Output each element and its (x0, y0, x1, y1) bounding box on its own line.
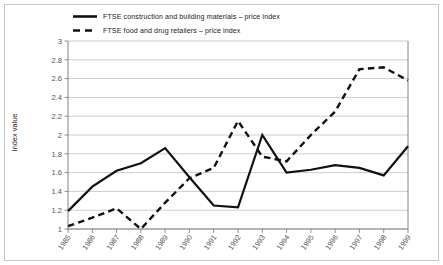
chart-canvas: 11.21.41.61.822.22.42.62.83 198519861987… (0, 0, 443, 265)
x-tick-label: 1986 (80, 233, 97, 252)
series-line-construction (68, 135, 408, 211)
x-tick-label: 1998 (372, 233, 389, 252)
y-tick-label: 1.4 (51, 187, 62, 196)
y-gridlines (68, 41, 408, 229)
x-tick-label: 1990 (177, 233, 194, 252)
x-tick-label: 1997 (347, 233, 364, 252)
x-tick-label: 1987 (105, 233, 122, 252)
y-tick-label: 1 (58, 225, 62, 234)
x-tick-label: 1995 (299, 233, 316, 252)
y-axis-ticks: 11.21.41.61.822.22.42.62.83 (51, 37, 68, 234)
y-tick-label: 2 (58, 131, 62, 140)
x-tick-label: 1992 (226, 233, 243, 252)
x-tick-label: 1988 (129, 233, 146, 252)
x-tick-label: 1999 (396, 233, 413, 252)
x-tick-label: 1993 (250, 233, 267, 252)
y-tick-label: 3 (58, 37, 62, 46)
x-tick-label: 1989 (153, 233, 170, 252)
x-tick-label: 1996 (323, 233, 340, 252)
data-series-layer (68, 67, 408, 229)
y-tick-label: 1.6 (51, 168, 62, 177)
x-tick-label: 1994 (275, 233, 292, 252)
y-tick-label: 2.2 (51, 112, 62, 121)
plot-area: 11.21.41.61.822.22.42.62.83 198519861987… (0, 0, 443, 265)
y-tick-label: 2.6 (51, 74, 62, 83)
y-tick-label: 1.8 (51, 150, 62, 159)
chart-figure: FTSE construction and building materials… (0, 0, 443, 265)
x-tick-label: 1985 (56, 233, 73, 252)
y-tick-label: 2.4 (51, 93, 62, 102)
y-tick-label: 1.2 (51, 206, 62, 215)
x-tick-label: 1991 (202, 233, 219, 252)
x-axis-ticks: 1985198619871988198919901991199219931994… (56, 229, 413, 252)
y-tick-label: 2.8 (51, 56, 62, 65)
